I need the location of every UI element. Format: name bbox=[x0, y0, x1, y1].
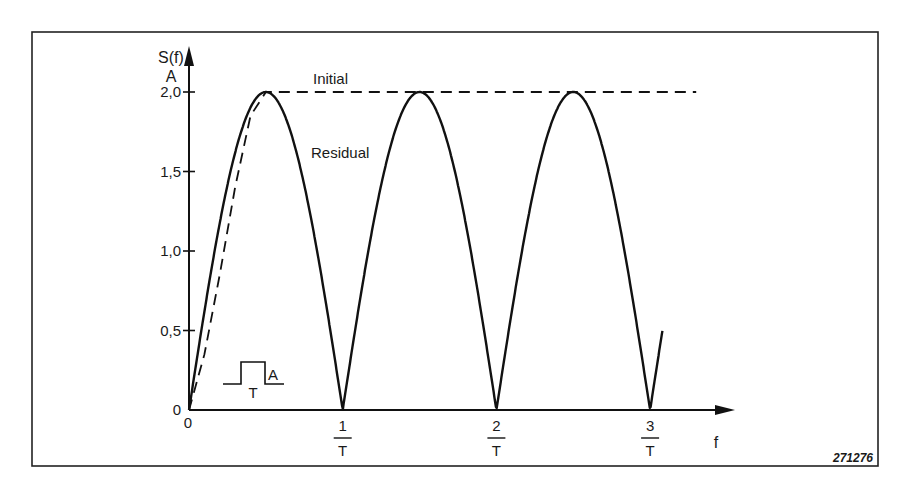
figure-frame bbox=[32, 32, 878, 466]
figure-id: 271276 bbox=[832, 451, 873, 465]
chart-canvas: 00,51,01,52,0 01T2T3T S(f) A f Initial R… bbox=[0, 0, 910, 491]
x-axis-title: f bbox=[714, 434, 719, 451]
y-axis-title: S(f) bbox=[158, 49, 184, 66]
y-axis-arrow-icon bbox=[184, 46, 194, 66]
y-axis: 00,51,01,52,0 bbox=[160, 46, 195, 418]
initial-label: Initial bbox=[313, 70, 348, 87]
x-tick-label: 3 bbox=[646, 417, 654, 434]
x-tick-denominator: T bbox=[338, 442, 347, 459]
residual-label: Residual bbox=[311, 144, 369, 161]
x-tick-label: 2 bbox=[492, 417, 500, 434]
pulse-inset-icon: A T bbox=[223, 362, 284, 401]
y-tick-label: 1,5 bbox=[160, 163, 181, 180]
x-axis-arrow-icon bbox=[715, 405, 735, 415]
x-tick-label: 1 bbox=[339, 417, 347, 434]
y-axis-unit: A bbox=[166, 68, 177, 85]
inset-width-label: T bbox=[248, 384, 257, 401]
inset-amplitude-label: A bbox=[268, 366, 278, 383]
y-tick-label: 0 bbox=[173, 401, 181, 418]
y-tick-label: 1,0 bbox=[160, 242, 181, 259]
x-tick-label: 0 bbox=[184, 414, 192, 431]
x-axis: 01T2T3T bbox=[184, 405, 735, 459]
y-tick-label: 0,5 bbox=[160, 322, 181, 339]
y-tick-label: 2,0 bbox=[160, 83, 181, 100]
x-tick-denominator: T bbox=[646, 442, 655, 459]
x-tick-denominator: T bbox=[492, 442, 501, 459]
